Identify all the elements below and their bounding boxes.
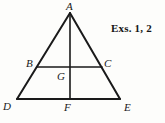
geometry-figure: A B C G D F E Exs. 1, 2 <box>0 0 165 123</box>
exercise-caption: Exs. 1, 2 <box>111 22 152 34</box>
vertex-label-a: A <box>66 1 73 12</box>
segment-AD <box>17 13 70 99</box>
vertex-label-e: E <box>124 102 131 113</box>
vertex-label-g: G <box>57 71 65 82</box>
vertex-label-d: D <box>3 101 11 112</box>
vertex-label-b: B <box>26 58 33 69</box>
vertex-label-f: F <box>64 102 71 113</box>
triangle-diagram <box>0 0 165 123</box>
vertex-label-c: C <box>104 58 111 69</box>
